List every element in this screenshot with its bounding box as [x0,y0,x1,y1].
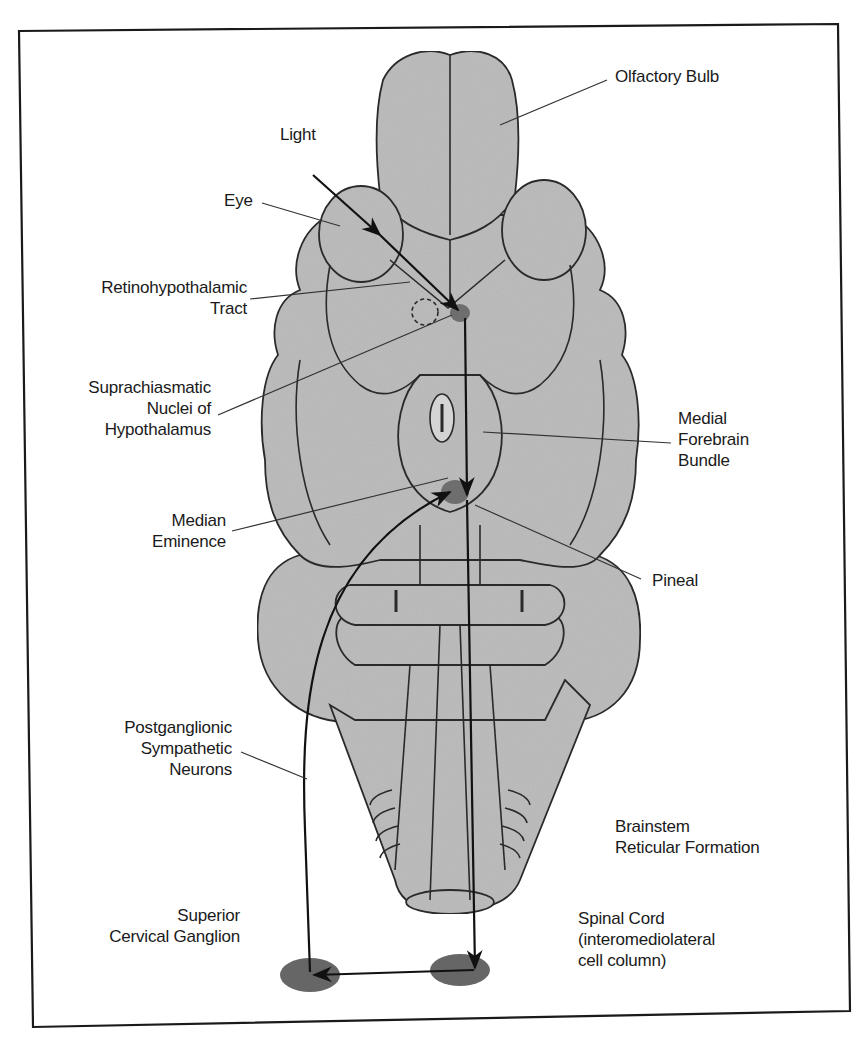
psn-leader [241,752,307,779]
label-suprachiasmatic-nuclei: Suprachiasmatic Nuclei of Hypothalamus [45,377,211,440]
spinal-cord-section [406,890,494,914]
label-olfactory-bulb: Olfactory Bulb [615,66,719,87]
right-eye-shape [502,180,586,280]
label-pineal: Pineal [652,570,698,591]
label-median-eminence: Median Eminence [120,510,226,552]
label-brainstem-reticular-formation: Brainstem Reticular Formation [615,816,760,858]
label-postganglionic-sympathetic-neurons: Postganglionic Sympathetic Neurons [80,717,232,780]
median-eminence-nucleus [441,480,469,504]
left-eye-shape [319,186,403,282]
label-spinal-cord: Spinal Cord (interomediolateral cell col… [578,908,715,971]
label-medial-forebrain-bundle: Medial Forebrain Bundle [678,408,749,471]
label-light: Light [280,124,316,145]
midbrain-shape [336,585,565,625]
label-retinohypothalamic-tract: Retinohypothalamic Tract [55,277,247,319]
label-superior-cervical-ganglion: Superior Cervical Ganglion [60,905,240,947]
brain-pathway-figure: Olfactory Bulb Light Eye Retinohypothala… [0,0,867,1046]
label-eye: Eye [224,190,253,211]
